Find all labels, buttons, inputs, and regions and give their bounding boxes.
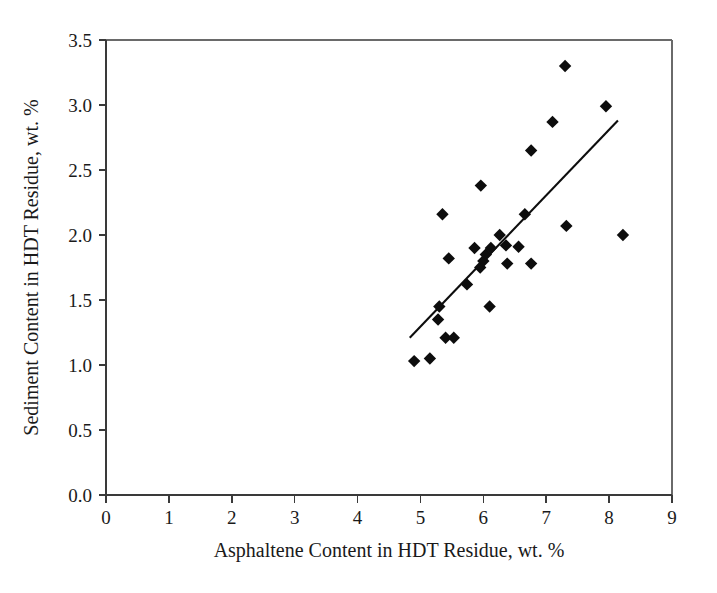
y-axis-title: Sediment Content in HDT Residue, wt. % xyxy=(20,99,42,435)
data-point xyxy=(525,144,537,156)
data-point xyxy=(525,257,537,269)
x-tick-label-0: 0 xyxy=(101,507,111,528)
x-tick-label-3: 3 xyxy=(290,507,300,528)
x-axis-title: Asphaltene Content in HDT Residue, wt. % xyxy=(214,539,565,562)
x-tick-label-4: 4 xyxy=(353,507,363,528)
x-tick-label-8: 8 xyxy=(604,507,614,528)
data-point xyxy=(424,352,436,364)
figure-container: 0.00.51.01.52.02.53.03.50123456789Asphal… xyxy=(0,0,717,593)
data-point xyxy=(617,229,629,241)
y-tick-label-2.5: 2.5 xyxy=(68,160,92,181)
y-tick-label-1.0: 1.0 xyxy=(68,355,92,376)
data-point xyxy=(475,179,487,191)
data-point xyxy=(559,60,571,72)
x-tick-label-7: 7 xyxy=(541,507,551,528)
x-tick-label-1: 1 xyxy=(164,507,174,528)
y-tick-label-1.5: 1.5 xyxy=(68,290,92,311)
x-tick-label-5: 5 xyxy=(416,507,426,528)
data-point xyxy=(443,252,455,264)
data-point xyxy=(448,332,460,344)
y-tick-label-3.0: 3.0 xyxy=(68,95,92,116)
y-tick-label-0.0: 0.0 xyxy=(68,485,92,506)
data-point xyxy=(512,241,524,253)
data-point xyxy=(600,100,612,112)
y-tick-label-2.0: 2.0 xyxy=(68,225,92,246)
data-point xyxy=(436,208,448,220)
x-tick-label-9: 9 xyxy=(667,507,677,528)
y-tick-label-3.5: 3.5 xyxy=(68,30,92,51)
data-point xyxy=(546,116,558,128)
data-point xyxy=(461,278,473,290)
data-point xyxy=(408,355,420,367)
data-point xyxy=(560,220,572,232)
series-0 xyxy=(408,60,629,368)
data-point xyxy=(501,257,513,269)
data-point xyxy=(519,208,531,220)
x-tick-label-2: 2 xyxy=(227,507,237,528)
y-tick-label-0.5: 0.5 xyxy=(68,420,92,441)
data-point xyxy=(483,300,495,312)
data-point xyxy=(468,242,480,254)
data-point xyxy=(432,313,444,325)
scatter-plot: 0.00.51.01.52.02.53.03.50123456789Asphal… xyxy=(0,0,717,593)
x-tick-label-6: 6 xyxy=(479,507,489,528)
